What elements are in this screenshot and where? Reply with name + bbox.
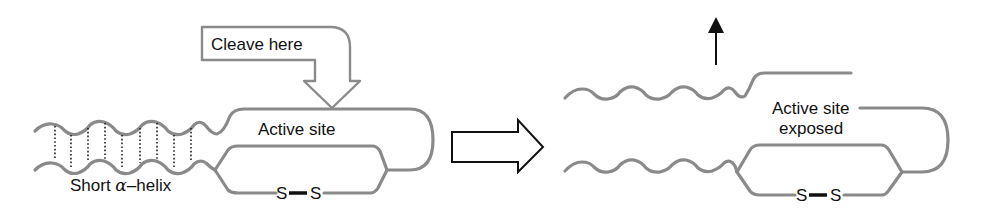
sulfur-atom-2-right: S bbox=[830, 186, 841, 205]
exposed-outer-loop bbox=[860, 108, 948, 172]
cleave-here-label: Cleave here bbox=[211, 35, 303, 54]
lower-branch-right bbox=[324, 170, 387, 193]
up-arrow-icon bbox=[708, 17, 724, 65]
released-helix-strand bbox=[565, 73, 851, 99]
protein-cleavage-diagram: Cleave here Active site Short α–helix S bbox=[0, 0, 998, 219]
lower-helix-strand bbox=[35, 160, 215, 173]
right-panel-active-protein: Active site exposed S S bbox=[565, 17, 948, 205]
sulfur-atom-1: S bbox=[276, 184, 287, 203]
sulfur-atom-1-right: S bbox=[796, 186, 807, 205]
active-site-exposed-line2: exposed bbox=[779, 119, 843, 138]
right-outline-arrow-icon bbox=[452, 120, 543, 172]
short-alpha-helix-label: Short α–helix bbox=[70, 175, 172, 195]
cleave-here-callout: Cleave here bbox=[202, 27, 360, 108]
sulfur-atom-2: S bbox=[310, 184, 321, 203]
lower-branch-left-right bbox=[737, 172, 795, 195]
left-panel-inactive-protein: Cleave here Active site Short α–helix S bbox=[35, 27, 433, 203]
lower-helix-strand-right bbox=[565, 160, 737, 172]
inner-loop-upper bbox=[215, 146, 387, 170]
lower-branch-left bbox=[215, 170, 276, 193]
active-site-label: Active site bbox=[258, 120, 335, 139]
disulfide-bond-left: S S bbox=[276, 184, 321, 203]
disulfide-bond-right: S S bbox=[796, 186, 841, 205]
active-site-exposed-line1: Active site bbox=[772, 99, 849, 118]
inner-loop-upper-right bbox=[737, 145, 902, 172]
lower-branch-right-right bbox=[844, 172, 902, 195]
hydrogen-bonds bbox=[55, 123, 191, 168]
